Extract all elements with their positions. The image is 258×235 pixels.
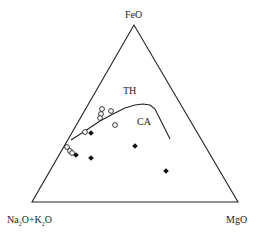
filled-diamond-series bbox=[73, 130, 169, 174]
diagram-canvas bbox=[0, 0, 258, 235]
filled-diamond-point bbox=[132, 143, 138, 149]
open-circle-point bbox=[113, 123, 118, 128]
open-circle-point bbox=[98, 116, 103, 121]
filled-diamond-point bbox=[163, 168, 169, 174]
filled-diamond-point bbox=[88, 155, 94, 161]
ternary-triangle bbox=[32, 25, 238, 202]
open-circle-point bbox=[109, 109, 114, 114]
vertex-label-feo: FeO bbox=[125, 9, 142, 20]
vertex-label-alkali: Na2O+K2O bbox=[7, 214, 52, 227]
open-circle-point bbox=[83, 130, 88, 135]
vertex-label-mgo: MgO bbox=[226, 214, 247, 225]
afm-ternary-diagram: FeO Na2O+K2O MgO TH CA bbox=[0, 0, 258, 235]
region-label-ca: CA bbox=[137, 116, 151, 127]
open-circle-point bbox=[100, 107, 105, 112]
region-label-th: TH bbox=[123, 85, 136, 96]
filled-diamond-point bbox=[88, 130, 94, 136]
